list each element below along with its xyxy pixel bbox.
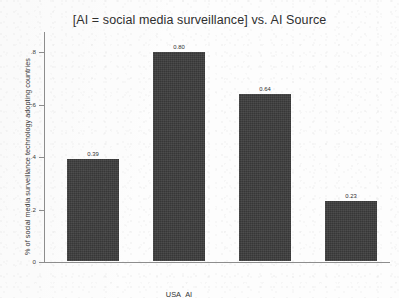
x-axis-spine [44,262,390,263]
bar-group-0: 0.39 China_AI [67,159,119,261]
bar-both[interactable] [239,94,291,261]
bar-china-ai[interactable] [67,159,119,261]
bar-value-3: 0.23 [325,193,377,199]
chart-title: [AI = social media surveillance] vs. AI … [0,13,399,27]
y-tick-label-2: .4 [31,153,36,160]
y-axis-spine [44,32,45,263]
bar-value-0: 0.39 [67,151,119,157]
y-tick-3: .6 [39,105,44,106]
y-tick-2: .4 [39,157,44,158]
x-tick-label-1: USA_AI [153,290,205,298]
bar-group-1: 0.80 USA_AI [153,52,205,261]
y-tick-4: .8 [39,52,44,53]
y-tick-label-0: 0 [33,258,36,265]
y-tick-label-1: .2 [31,206,36,213]
y-tick-1: .2 [39,210,44,211]
bar-usa-ai[interactable] [153,52,205,261]
bar-group-2: 0.64 both [239,94,291,261]
y-tick-label-4: .8 [31,48,36,55]
bar-value-1: 0.80 [153,44,205,50]
bar-none[interactable] [325,201,377,261]
bar-group-3: 0.23 none [325,201,377,261]
chart-figure: [AI = social media surveillance] vs. AI … [0,0,399,298]
y-tick-0: 0 [39,262,44,263]
plot-area: 0 .2 .4 .6 .8 0.39 China_AI 0.80 USA_AI … [44,32,390,262]
bar-value-2: 0.64 [239,86,291,92]
y-tick-label-3: .6 [31,101,36,108]
